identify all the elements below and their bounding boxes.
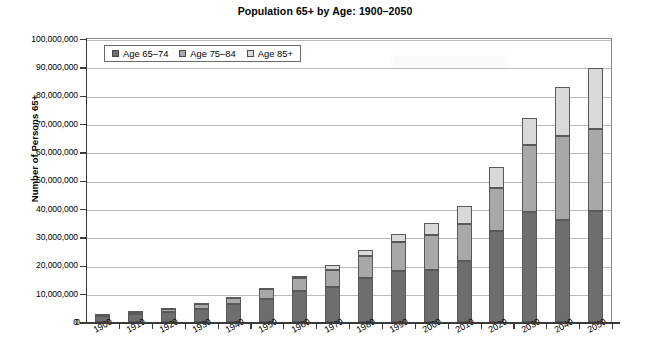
bar-segment-2030-series2 [522,145,537,212]
bar-segment-1960-series3 [292,276,307,279]
bar-segment-2000-series3 [424,223,439,235]
bar-segment-1900-series3 [95,314,110,316]
x-axis-tick [579,323,580,329]
bar-segment-2010-series1 [457,261,472,322]
population-bar-chart: Population 65+ by Age: 1900–2050 Number … [0,0,650,349]
bar-stack-2010 [457,39,472,322]
bar-segment-2050-series2 [588,129,603,211]
bar-segment-2040-series2 [555,136,570,220]
x-axis-tick [218,323,219,329]
bar-stack-1940 [226,39,241,322]
bar-segment-2020-series3 [489,167,504,188]
bar-segment-1980-series3 [358,250,373,257]
bar-segment-2000-series2 [424,235,439,270]
x-axis-tick [382,323,383,329]
bar-segment-1950-series3 [259,288,274,290]
bar-segment-1990-series1 [391,271,406,322]
legend-label: Age 85+ [258,49,293,58]
x-axis-tick [316,323,317,329]
x-axis-tick [185,323,186,329]
bar-stack-1990 [391,39,406,322]
bar-segment-2010-series3 [457,206,472,223]
bar-segment-2000-series1 [424,270,439,322]
legend-label: Age 75–84 [190,49,235,58]
bar-segment-2040-series3 [555,87,570,136]
x-axis-tick [415,323,416,329]
bar-segment-1990-series3 [391,234,406,243]
bar-segment-1970-series2 [325,270,340,287]
bar-stack-1930 [194,39,209,322]
bar-segment-1920-series3 [161,308,176,310]
bar-segment-2050-series1 [588,211,603,323]
legend-item-1[interactable]: Age 65–74 [112,49,168,58]
legend-label: Age 65–74 [123,49,168,58]
bar-segment-2040-series1 [555,220,570,322]
bar-segment-2030-series1 [522,212,537,322]
y-axis-zero-label: 0 [64,318,80,327]
bar-stack-2050 [588,39,603,322]
legend-swatch-icon [179,50,186,57]
bar-stack-2000 [424,39,439,322]
x-axis-tick [546,323,547,329]
bar-stack-1960 [292,39,307,322]
chart-legend: Age 65–74Age 75–84Age 85+ [104,45,301,62]
x-axis-tick [283,323,284,329]
bar-stack-1970 [325,39,340,322]
x-axis-tick [481,323,482,329]
x-axis-tick [612,323,613,329]
bar-stack-1980 [358,39,373,322]
legend-swatch-icon [247,50,254,57]
bar-segment-1940-series3 [226,297,241,299]
x-axis-tick [448,323,449,329]
x-axis-tick [513,323,514,329]
bar-segment-1980-series2 [358,256,373,278]
bar-segment-1910-series3 [128,311,143,313]
x-axis-tick [152,323,153,329]
bar-segment-2030-series3 [522,118,537,145]
bar-segment-1940-series2 [226,298,241,305]
bar-segment-1950-series2 [259,289,274,298]
bar-stack-2030 [522,39,537,322]
legend-swatch-icon [112,50,119,57]
bar-segment-2020-series2 [489,188,504,231]
x-axis-tick [119,323,120,329]
x-axis-tick [349,323,350,329]
bar-segment-1960-series2 [292,278,307,291]
bars-layer: 1900191019201930194019501960197019801990… [0,0,650,349]
bar-stack-2040 [555,39,570,322]
legend-item-2[interactable]: Age 75–84 [179,49,235,58]
bar-segment-2020-series1 [489,231,504,323]
bar-segment-2010-series2 [457,224,472,261]
bar-stack-2020 [489,39,504,322]
bar-stack-1920 [161,39,176,322]
bar-segment-2050-series3 [588,68,603,129]
x-axis-tick [250,323,251,329]
bar-segment-1930-series3 [194,303,209,305]
bar-stack-1900 [95,39,110,322]
bar-stack-1910 [128,39,143,322]
legend-item-3[interactable]: Age 85+ [247,49,293,58]
bar-segment-1970-series3 [325,265,340,269]
x-axis-line [86,322,620,323]
bar-segment-1990-series2 [391,242,406,271]
bar-stack-1950 [259,39,274,322]
